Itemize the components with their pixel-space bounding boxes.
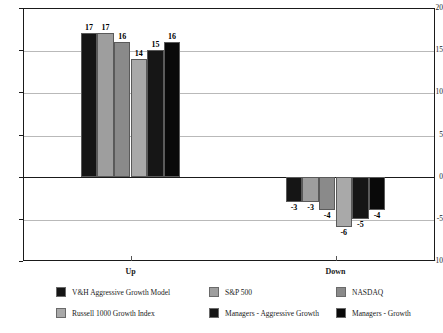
y-tick-label: 10 xyxy=(423,88,443,96)
bar xyxy=(352,177,369,219)
legend-item[interactable]: V&H Aggressive Growth Model xyxy=(56,286,170,298)
bar-value-label: -3 xyxy=(302,203,319,212)
y-tick-label: 0 xyxy=(423,173,443,181)
bar-value-label: 17 xyxy=(81,23,98,32)
y-tick-mark xyxy=(19,50,23,51)
x-tick-label-up: Up xyxy=(96,267,166,276)
y-tick-mark xyxy=(19,8,23,9)
bar-value-label: -4 xyxy=(319,211,336,220)
bar xyxy=(369,177,386,211)
y-tick-mark xyxy=(19,177,23,178)
bar xyxy=(319,177,336,211)
legend-item[interactable]: S&P 500 xyxy=(209,286,252,298)
bar-value-label: 14 xyxy=(131,49,148,58)
y-tick-mark xyxy=(19,92,23,93)
legend-item[interactable]: Managers - Growth xyxy=(336,307,411,319)
legend-swatch-icon xyxy=(209,308,219,318)
bar-value-label: -6 xyxy=(336,228,353,237)
x-tick-mark xyxy=(336,256,337,261)
y-tick-label: -10 xyxy=(423,257,443,265)
chart-legend: V&H Aggressive Growth ModelS&P 500NASDAQ… xyxy=(56,286,436,328)
legend-label: V&H Aggressive Growth Model xyxy=(72,288,170,297)
legend-item[interactable]: Russell 1000 Growth Index xyxy=(56,307,155,319)
y-tick-label: 20 xyxy=(423,4,443,12)
legend-swatch-icon xyxy=(336,287,346,297)
bar-chart: 20151050-5-10 UpDown 171716141516-3-3-4-… xyxy=(0,0,443,333)
legend-label: Managers - Aggressive Growth xyxy=(225,309,319,318)
bar xyxy=(114,42,131,177)
y-tick-mark xyxy=(19,135,23,136)
legend-item[interactable]: Managers - Aggressive Growth xyxy=(209,307,319,319)
bar-value-label: 16 xyxy=(164,32,181,41)
legend-swatch-icon xyxy=(336,308,346,318)
bar-value-label: 15 xyxy=(147,40,164,49)
legend-swatch-icon xyxy=(56,308,66,318)
legend-label: Russell 1000 Growth Index xyxy=(72,309,155,318)
legend-label: Managers - Growth xyxy=(352,309,411,318)
legend-item[interactable]: NASDAQ xyxy=(336,286,383,298)
bar-value-label: 17 xyxy=(97,23,114,32)
legend-label: S&P 500 xyxy=(225,288,252,297)
legend-swatch-icon xyxy=(56,287,66,297)
bar xyxy=(336,177,353,228)
bar xyxy=(81,33,98,176)
bar-value-label: -4 xyxy=(369,211,386,220)
y-tick-label: -5 xyxy=(423,215,443,223)
y-tick-mark xyxy=(19,219,23,220)
x-tick-mark xyxy=(131,256,132,261)
bar xyxy=(302,177,319,202)
bar-value-label: -3 xyxy=(286,203,303,212)
y-tick-label: 5 xyxy=(423,131,443,139)
y-tick-label: 15 xyxy=(423,46,443,54)
legend-swatch-icon xyxy=(209,287,219,297)
bar xyxy=(97,33,114,176)
bar xyxy=(147,50,164,177)
bar-value-label: 16 xyxy=(114,32,131,41)
bar xyxy=(164,42,181,177)
legend-label: NASDAQ xyxy=(352,288,383,297)
y-tick-mark xyxy=(19,261,23,262)
bar xyxy=(286,177,303,202)
bar-value-label: -5 xyxy=(352,220,369,229)
x-tick-label-down: Down xyxy=(301,267,371,276)
bar xyxy=(131,59,148,177)
